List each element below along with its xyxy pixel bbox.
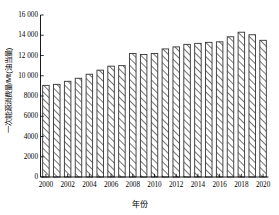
x-tick-label: 2008	[126, 181, 140, 189]
x-tick-label: 2006	[104, 181, 118, 189]
x-tick-label: 2016	[212, 181, 226, 189]
chart-figure: 一次能源消费量/Mt(油当量) 0200040006000800010 0001…	[0, 0, 279, 215]
x-tick-label: 2004	[82, 181, 96, 189]
x-tick-label: 2014	[191, 181, 205, 189]
x-axis-label: 年份	[0, 198, 279, 209]
x-tick-label: 2020	[256, 181, 270, 189]
x-tick-label: 2010	[147, 181, 161, 189]
x-tick-label: 2000	[39, 181, 53, 189]
x-tick-label: 2002	[60, 181, 74, 189]
x-tick-label: 2018	[234, 181, 248, 189]
x-axis-tick-labels: 2000200220042006200820102012201420162018…	[0, 0, 279, 215]
x-tick-label: 2012	[169, 181, 183, 189]
